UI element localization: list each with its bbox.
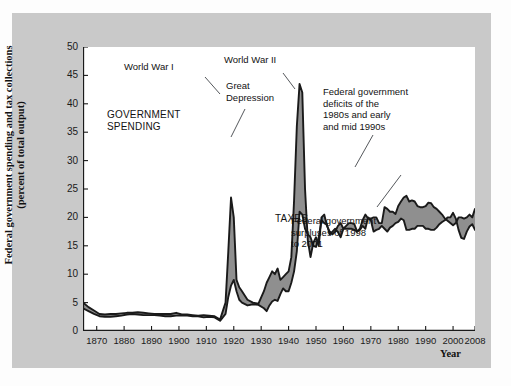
- y-tick-label: 10: [56, 268, 78, 279]
- plot-area: World War I World War II Great Depressio…: [83, 47, 475, 331]
- x-axis-title: Year: [440, 348, 461, 359]
- annotation-world-war-1: World War I: [124, 61, 174, 73]
- y-tick-label: 0: [56, 325, 78, 336]
- y-tick-label: 5: [56, 297, 78, 308]
- ww1-leader-line: [205, 77, 220, 94]
- chart-panel: Federal government spending and tax coll…: [12, 13, 491, 368]
- x-tick-label: 2008: [458, 335, 492, 346]
- taxes-line: [83, 212, 475, 321]
- deficits-leader-line: [355, 135, 373, 167]
- y-tick-label: 45: [56, 69, 78, 80]
- annotation-great-depression: Great Depression: [226, 80, 274, 103]
- y-axis-title: Federal government spending and tax coll…: [0, 13, 32, 297]
- surpluses-leader-line: [377, 175, 401, 207]
- figure-root: Federal government spending and tax coll…: [0, 0, 511, 386]
- chart-svg: [83, 47, 475, 331]
- annotation-surpluses: Federal government surpluses of 1998 to …: [291, 215, 376, 250]
- y-tick-label: 15: [56, 240, 78, 251]
- annotation-government-spending: GOVERNMENT SPENDING: [107, 109, 181, 133]
- y-tick-label: 30: [56, 155, 78, 166]
- annotation-deficits: Federal government deficits of the 1980s…: [323, 86, 408, 132]
- annotation-world-war-2: World War II: [224, 54, 276, 66]
- great-depression-leader-line: [231, 109, 245, 137]
- y-axis-title-line1: Federal government spending and tax coll…: [3, 45, 16, 264]
- ww2-leader-line: [283, 73, 295, 89]
- y-axis-title-line2: (percent of total output): [15, 101, 28, 208]
- y-tick-label: 20: [56, 211, 78, 222]
- y-tick-label: 35: [56, 126, 78, 137]
- y-axis-title-wrapper: Federal government spending and tax coll…: [0, 13, 32, 297]
- y-tick-label: 40: [56, 98, 78, 109]
- y-tick-label: 25: [56, 183, 78, 194]
- y-tick-label: 50: [56, 41, 78, 52]
